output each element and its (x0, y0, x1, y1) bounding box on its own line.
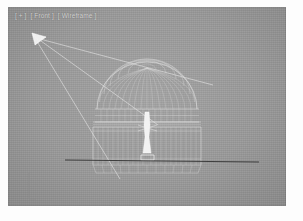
viewport-view-name[interactable]: [ Front ] (30, 11, 55, 20)
viewport-front-wireframe[interactable]: [ + ] [ Front ] [ Wireframe ] (8, 7, 286, 206)
viewport-shading-mode[interactable]: [ Wireframe ] (57, 11, 98, 20)
central-statue (138, 112, 157, 160)
viewport-label: [ + ] [ Front ] [ Wireframe ] (14, 11, 97, 20)
dome-mesh (97, 59, 197, 109)
scene-wireframe (8, 7, 286, 206)
axis-tripod (29, 173, 36, 199)
viewport-menu-marker[interactable]: [ + ] (14, 11, 28, 20)
ground-line (65, 160, 259, 162)
app-root: [ + ] [ Front ] [ Wireframe ] (0, 0, 303, 221)
base-plinth (93, 165, 201, 173)
